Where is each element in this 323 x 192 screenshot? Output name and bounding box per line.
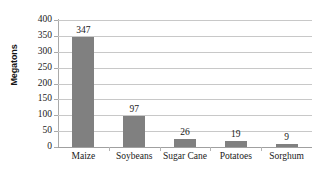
y-axis-tick-label: 150 [22,95,52,105]
y-axis-tick-label: 400 [22,15,52,25]
bar-chart: Megatons 050100150200250300350400 347Mai… [0,0,323,192]
y-axis-tick-label: 50 [22,126,52,136]
bar-value-label: 9 [267,132,307,142]
y-axis-tick-mark [54,131,58,132]
bar[interactable] [72,37,94,147]
y-axis-tick-mark [54,147,58,148]
x-axis-line [58,147,312,148]
gridline [58,99,312,100]
x-axis-category-label: Sorghum [261,151,313,162]
x-axis-category-label: Soybeans [108,151,160,162]
y-axis-tick-label: 200 [22,79,52,89]
x-axis-category-label: Potatoes [210,151,262,162]
y-axis-tick-label: 350 [22,31,52,41]
gridline [58,52,312,53]
bar[interactable] [123,116,145,147]
y-axis-tick-labels: 050100150200250300350400 [22,20,52,147]
y-axis-tick-label: 100 [22,111,52,121]
y-axis-tick-label: 0 [22,142,52,152]
y-axis-tick-mark [54,68,58,69]
y-axis-tick-mark [54,99,58,100]
bar[interactable] [174,139,196,147]
x-axis-category-label: Maize [57,151,109,162]
y-axis-title: Megatons [9,20,19,110]
gridline [58,68,312,69]
x-axis-tick-mark [109,147,110,151]
y-axis-tick-mark [54,115,58,116]
y-axis-tick-mark [54,84,58,85]
x-axis-tick-mark [210,147,211,151]
y-axis-tick-mark [54,52,58,53]
gridline [58,115,312,116]
bar-value-label: 19 [216,129,256,139]
y-axis-tick-label: 300 [22,47,52,57]
x-axis-tick-mark [160,147,161,151]
gridline [58,20,312,21]
gridline [58,36,312,37]
gridline [58,84,312,85]
x-axis-tick-mark [261,147,262,151]
bar-value-label: 347 [63,25,103,35]
y-axis-tick-label: 250 [22,63,52,73]
y-axis-tick-mark [54,36,58,37]
bar-value-label: 97 [114,104,154,114]
x-axis-category-label: Sugar Cane [159,151,211,162]
bar-value-label: 26 [165,127,205,137]
y-axis-tick-mark [54,20,58,21]
